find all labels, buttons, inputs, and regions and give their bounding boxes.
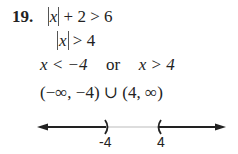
label-neg-4: -4 [99, 132, 111, 152]
number-line [0, 0, 238, 154]
left-arrow-icon [37, 124, 48, 131]
label-4: 4 [157, 132, 165, 152]
right-arrow-icon [215, 124, 226, 131]
